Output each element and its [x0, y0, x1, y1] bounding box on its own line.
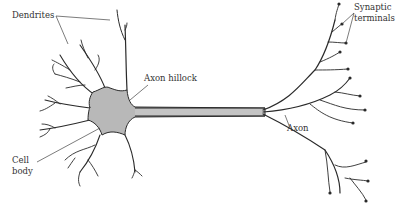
neuron-illustration: Dendrites Axon hillock Synaptic terminal… [0, 0, 397, 208]
label-axon: Axon [286, 123, 309, 133]
label-synaptic-terminals-line2: terminals [354, 13, 395, 23]
label-cell-body-line1: Cell [12, 155, 29, 165]
label-axon-hillock: Axon hillock [143, 73, 198, 83]
neuron-diagram: Dendrites Axon hillock Synaptic terminal… [0, 0, 397, 208]
label-cell-body-line2: body [12, 166, 33, 176]
label-dendrites: Dendrites [12, 10, 54, 20]
axon [135, 108, 265, 116]
axon-terminals [263, 2, 370, 202]
label-synaptic-terminals-line1: Synaptic [354, 2, 392, 12]
leader-lines [37, 13, 354, 162]
